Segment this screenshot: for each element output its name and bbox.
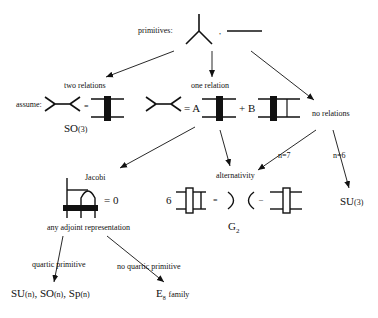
quartic-primitive-label: quartic primitive [32,261,86,269]
no-relations-label: no relations [312,110,350,118]
e8-family-result: E8 family [156,288,189,301]
n7-label: n=7 [278,152,291,160]
classical-groups-result: SU(n), SO(n), Sp(n) [11,288,90,299]
alternativity-coefficient: 6 [166,195,172,206]
coefficient-b: + B [239,103,255,114]
any-adjoint-label: any adjoint representation [47,224,130,232]
two-relations-equals: = [84,103,89,111]
arrows-level-3 [54,236,164,282]
jacobi-diagram-icon [63,178,98,218]
diagram-canvas [0,0,378,318]
assume-label: assume: [16,101,42,109]
alternativity-label: alternativity [216,172,255,180]
arrows-level-1 [106,51,314,100]
alternativity-diagram-icon [176,188,302,213]
one-relation-equation [146,96,300,121]
coefficient-a: = A [184,103,200,114]
no-quartic-primitive-label: no quartic primitive [117,263,181,271]
trivalent-vertex-icon [186,14,212,44]
one-relation-label: one relation [191,82,229,90]
jacobi-equals-zero: = 0 [104,195,118,206]
so3-result: SO(3) [64,123,87,134]
alternativity-equals: = [213,197,218,205]
alternativity-minus: – [259,196,263,204]
n6-label: n=6 [333,152,346,160]
jacobi-label: Jacobi [85,174,105,182]
primitives-separator: , [219,28,221,36]
su3-result: SU(3) [340,196,363,207]
g2-result: G2 [228,221,239,235]
primitives-label: primitives: [138,27,173,35]
two-relations-label: two relations [64,82,106,90]
